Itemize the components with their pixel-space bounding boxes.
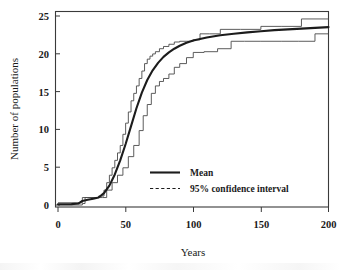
y-tick-label-10: 10 — [39, 124, 50, 135]
x-tick-label-100: 100 — [186, 219, 202, 230]
chart-background — [0, 0, 340, 270]
x-tick-label-0: 0 — [55, 219, 60, 230]
x-tick-label-150: 150 — [253, 219, 269, 230]
y-tick-label-0: 0 — [44, 200, 49, 211]
x-axis-title: Years — [181, 246, 206, 258]
legend-label-confidence-interval: 95% confidence interval — [190, 184, 289, 194]
y-tick-label-15: 15 — [39, 87, 50, 98]
x-tick-label-50: 50 — [121, 219, 132, 230]
y-axis-title: Number of populations — [8, 58, 20, 160]
x-tick-label-200: 200 — [321, 219, 337, 230]
figure-container: 25 20 15 10 5 0 0 50 100 150 200 Years N… — [0, 0, 340, 270]
legend-label-mean: Mean — [190, 168, 214, 178]
y-tick-label-25: 25 — [39, 11, 50, 22]
survival-curve-chart: 25 20 15 10 5 0 0 50 100 150 200 Years N… — [0, 0, 340, 270]
y-tick-label-20: 20 — [39, 49, 50, 60]
y-tick-label-5: 5 — [44, 162, 49, 173]
